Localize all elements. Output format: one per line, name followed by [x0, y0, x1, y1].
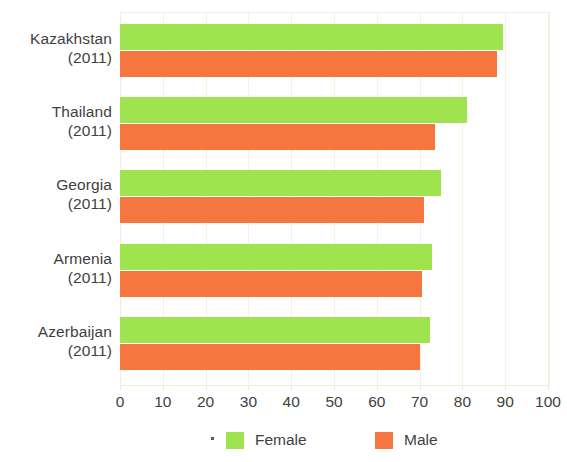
x-tick-label: 30	[226, 392, 270, 412]
gridline	[548, 12, 549, 385]
x-tick-label: 100	[526, 392, 567, 412]
x-tick-label: 60	[355, 392, 399, 412]
x-tick-mark	[334, 385, 335, 390]
bar-kazakhstan-male[interactable]	[120, 51, 497, 77]
bar-thailand-female[interactable]	[120, 97, 467, 123]
category-year: (2011)	[0, 121, 112, 140]
x-tick-mark	[377, 385, 378, 390]
category-label-azerbaijan: Azerbaijan(2011)	[0, 322, 112, 360]
legend-label-male: Male	[404, 430, 438, 450]
category-name: Thailand	[52, 103, 112, 120]
legend-swatch-female-icon	[226, 432, 244, 449]
category-year: (2011)	[0, 341, 112, 360]
category-label-armenia: Armenia(2011)	[0, 249, 112, 287]
category-name: Georgia	[56, 176, 112, 193]
x-tick-mark	[120, 385, 121, 390]
bar-azerbaijan-male[interactable]	[120, 344, 420, 370]
x-tick-label: 20	[184, 392, 228, 412]
category-name: Armenia	[54, 250, 112, 267]
category-year: (2011)	[0, 48, 112, 67]
category-year: (2011)	[0, 194, 112, 213]
legend-item-male[interactable]: Male	[375, 428, 438, 452]
x-tick-label: 50	[312, 392, 356, 412]
x-tick-label: 80	[440, 392, 484, 412]
x-tick-mark	[548, 385, 549, 390]
legend-dot-marker	[211, 437, 214, 440]
category-label-thailand: Thailand(2011)	[0, 102, 112, 140]
bar-thailand-male[interactable]	[120, 124, 435, 150]
bar-kazakhstan-female[interactable]	[120, 24, 503, 50]
x-tick-mark	[505, 385, 506, 390]
bar-armenia-female[interactable]	[120, 244, 432, 270]
x-tick-label: 40	[269, 392, 313, 412]
x-tick-mark	[248, 385, 249, 390]
category-name: Azerbaijan	[38, 323, 112, 340]
x-tick-mark	[206, 385, 207, 390]
category-year: (2011)	[0, 268, 112, 287]
x-tick-mark	[420, 385, 421, 390]
x-tick-mark	[291, 385, 292, 390]
bar-armenia-male[interactable]	[120, 271, 422, 297]
x-tick-label: 10	[141, 392, 185, 412]
category-label-georgia: Georgia(2011)	[0, 175, 112, 213]
bar-georgia-female[interactable]	[120, 170, 441, 196]
chart-legend: Female Male	[0, 428, 567, 458]
gridline	[505, 12, 506, 385]
category-label-kazakhstan: Kazakhstan(2011)	[0, 29, 112, 67]
bar-georgia-male[interactable]	[120, 197, 424, 223]
legend-item-female[interactable]: Female	[226, 428, 307, 452]
legend-label-female: Female	[255, 430, 307, 450]
category-name: Kazakhstan	[30, 30, 112, 47]
legend-swatch-male-icon	[375, 432, 393, 449]
x-tick-label: 90	[483, 392, 527, 412]
x-tick-mark	[163, 385, 164, 390]
x-tick-label: 70	[398, 392, 442, 412]
bar-azerbaijan-female[interactable]	[120, 317, 430, 343]
horizontal-bar-chart: 0102030405060708090100 Kazakhstan(2011)T…	[0, 0, 567, 462]
x-tick-label: 0	[98, 392, 142, 412]
x-tick-mark	[462, 385, 463, 390]
